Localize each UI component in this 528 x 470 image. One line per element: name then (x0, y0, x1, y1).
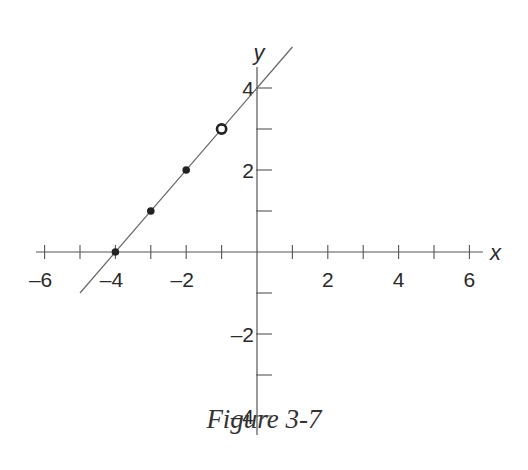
x-tick-label: –4 (100, 268, 124, 291)
figure-caption: Figure 3-7 (0, 404, 528, 435)
y-tick-label: –2 (231, 323, 254, 346)
x-tick-label: 6 (464, 268, 476, 291)
axes (36, 67, 483, 435)
x-axis-label: x (489, 240, 502, 265)
x-tick-label: 4 (393, 268, 405, 291)
open-point (217, 124, 226, 133)
y-tick-label: 4 (242, 77, 254, 100)
filled-point (182, 166, 190, 174)
filled-point (147, 207, 155, 215)
axis-labels: xy (252, 40, 503, 265)
x-tick-label: –2 (171, 268, 194, 291)
y-axis-label: y (252, 40, 267, 65)
filled-point (112, 248, 120, 256)
x-tick-label: –6 (29, 268, 52, 291)
y-tick-label: 2 (242, 159, 254, 182)
coordinate-plane-chart: –6–4–224642–2–4 xy (0, 0, 528, 470)
x-tick-label: 2 (322, 268, 334, 291)
